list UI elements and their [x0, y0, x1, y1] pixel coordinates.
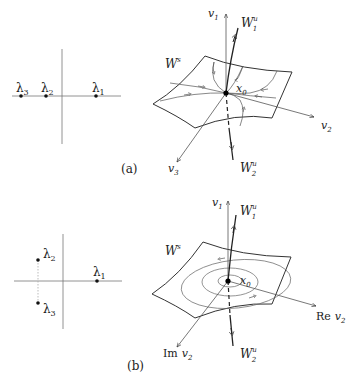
caption-b: (b) — [127, 359, 144, 373]
v3-label: v3 — [168, 162, 179, 177]
caption-a: (a) — [121, 162, 138, 176]
phase-space-a: v1 Wu1 Ws x0 v2 v3 Wu2 — [153, 7, 332, 178]
re-v2-label: Rev2 — [316, 310, 346, 325]
phase-space-b: v1 Wu1 Ws x0 Rev2 Imv2 Wu2 — [152, 196, 346, 364]
ws-label: Ws — [165, 56, 181, 71]
panel-a: λ3 λ2 λ1 (a) — [12, 7, 332, 178]
eigenvalue-2-label: λ2 — [43, 247, 56, 263]
eigenvalue-3-label: λ3 — [16, 81, 29, 97]
eigenvalue-2-dot — [36, 258, 40, 262]
eigenvalue-1-label: λ1 — [93, 265, 106, 281]
v2-label: v2 — [321, 119, 332, 134]
eigenvalue-1-label: λ1 — [92, 81, 105, 97]
eigenvalue-3-label: λ3 — [43, 302, 56, 318]
wu2-label: Wu2 — [240, 160, 257, 178]
wu2-label: Wu2 — [240, 346, 257, 364]
wu1-label: Wu1 — [240, 203, 257, 221]
eigen-plane-a: λ3 λ2 λ1 — [12, 49, 121, 144]
ws-label: Ws — [165, 243, 181, 258]
figure: λ3 λ2 λ1 (a) — [0, 0, 354, 382]
eigenvalue-1-dot — [95, 279, 99, 283]
v1-label: v1 — [208, 7, 219, 22]
fixed-point-a — [223, 90, 228, 95]
im-v2-label: Imv2 — [163, 347, 193, 362]
v1-label: v1 — [212, 196, 223, 211]
eigenvalue-3-dot — [36, 301, 40, 305]
panel-b: λ2 λ1 λ3 (b) v1 Wu1 Ws — [14, 196, 346, 373]
wu1-label: Wu1 — [241, 15, 258, 33]
eigenvalue-2-label: λ2 — [41, 81, 54, 97]
fixed-point-b — [225, 278, 230, 283]
eigen-plane-b: λ2 λ1 λ3 — [14, 234, 122, 329]
